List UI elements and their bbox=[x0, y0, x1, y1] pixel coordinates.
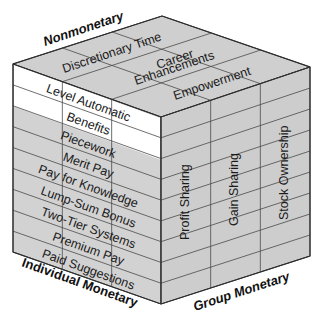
reward-cube-diagram: Discretionary Time Career Enhancements E… bbox=[0, 0, 321, 323]
right-label-stock-ownership: Stock Ownership bbox=[277, 125, 291, 220]
right-label-gain-sharing: Gain Sharing bbox=[227, 153, 241, 226]
right-label-profit-sharing: Profit Sharing bbox=[178, 164, 192, 240]
